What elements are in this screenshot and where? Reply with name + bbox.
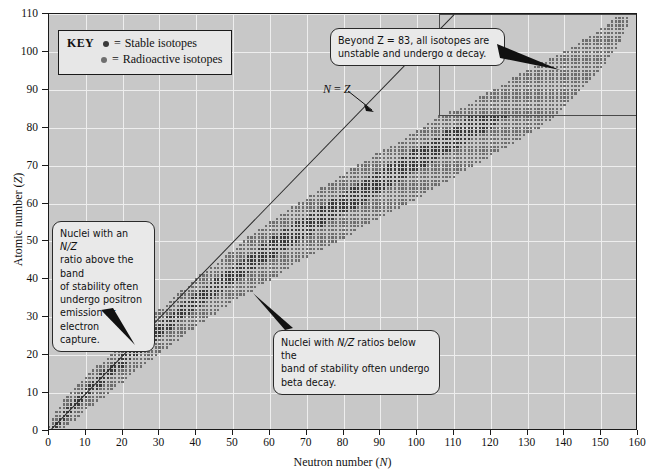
x-tick-label: 100 — [408, 436, 425, 448]
x-tick-label: 150 — [592, 436, 609, 448]
y-tick-mark — [42, 430, 48, 431]
radioactive-isotope-swatch — [101, 57, 107, 63]
x-tick-label: 20 — [116, 436, 128, 448]
legend-key-box: KEY = Stable isotopes = Radioactive isot… — [58, 30, 232, 75]
callout-positron-line6: capture. — [60, 333, 147, 346]
x-tick-mark — [306, 430, 307, 435]
z-symbol: Z — [344, 82, 351, 96]
x-tick-label: 160 — [628, 436, 645, 448]
x-tick-label: 140 — [555, 436, 572, 448]
x-tick-label: 30 — [153, 436, 165, 448]
x-tick-mark — [600, 430, 601, 435]
y-tick-label: 90 — [0, 83, 38, 95]
x-tick-label: 70 — [300, 436, 312, 448]
callout-positron-line2: ratio above the band — [60, 253, 147, 279]
callout-beta-line2: band of stability often undergo — [281, 362, 432, 375]
x-tick-mark — [48, 430, 49, 435]
callout-positron-line3: of stability often — [60, 280, 147, 293]
y-tick-mark — [42, 203, 48, 204]
x-tick-mark — [527, 430, 528, 435]
x-tick-label: 60 — [263, 436, 275, 448]
y-tick-mark — [42, 127, 48, 128]
y-tick-label: 110 — [0, 7, 38, 19]
legend-item-radioactive: = Radioactive isotopes — [67, 52, 222, 68]
x-tick-mark — [122, 430, 123, 435]
y-tick-label: 100 — [0, 45, 38, 57]
x-tick-mark — [232, 430, 233, 435]
x-tick-mark — [269, 430, 270, 435]
x-tick-mark — [85, 430, 86, 435]
callout-positron-line1-a: Nuclei with an — [60, 228, 128, 239]
x-tick-label: 80 — [337, 436, 349, 448]
x-tick-mark — [563, 430, 564, 435]
y-axis-title-symbol: Z — [11, 177, 25, 184]
callout-positron-line5: emission or electron — [60, 306, 147, 332]
y-tick-mark — [42, 51, 48, 52]
x-tick-mark — [637, 430, 638, 435]
legend-label-stable: Stable isotopes — [125, 36, 197, 52]
callout-alpha-line1: Beyond Z = 83, all isotopes are — [338, 34, 497, 47]
x-tick-mark — [453, 430, 454, 435]
y-tick-label: 0 — [0, 424, 38, 436]
legend-equals-stable: = — [114, 36, 121, 52]
callout-beta-line1: Nuclei with N/Z ratios below the — [281, 336, 432, 362]
y-tick-label: 10 — [0, 386, 38, 398]
x-axis-title-prefix: Neutron number ( — [294, 455, 380, 469]
x-tick-label: 50 — [226, 436, 238, 448]
x-tick-mark — [343, 430, 344, 435]
x-tick-mark — [416, 430, 417, 435]
y-tick-mark — [42, 354, 48, 355]
y-axis-title-prefix: Atomic number ( — [11, 184, 25, 267]
callout-positron-line4: undergo positron — [60, 293, 147, 306]
x-tick-mark — [379, 430, 380, 435]
callout-positron-nz-symbol: N/Z — [60, 241, 77, 252]
y-tick-mark — [42, 13, 48, 14]
legend-equals-radioactive: = — [112, 52, 119, 68]
x-tick-mark — [158, 430, 159, 435]
y-tick-label: 20 — [0, 348, 38, 360]
x-axis-title-symbol: N — [379, 455, 387, 469]
nuclear-stability-chart: 0102030405060708090100110120130140150160… — [0, 0, 651, 475]
x-axis-title: Neutron number (N) — [48, 455, 637, 470]
y-tick-mark — [42, 165, 48, 166]
x-tick-mark — [490, 430, 491, 435]
callout-beta-nz-symbol: N/Z — [337, 337, 354, 348]
x-tick-label: 0 — [45, 436, 51, 448]
callout-beta-line1-a: Nuclei with — [281, 337, 337, 348]
n-symbol: N — [323, 82, 331, 96]
legend-label-radioactive: Radioactive isotopes — [123, 52, 223, 68]
y-axis-title: Atomic number (Z) — [11, 110, 26, 330]
x-axis-title-suffix: ) — [388, 455, 392, 469]
y-tick-mark — [42, 278, 48, 279]
x-tick-label: 40 — [190, 436, 202, 448]
y-tick-mark — [42, 392, 48, 393]
n-equals-z-label: N = Z — [323, 82, 350, 97]
callout-beta-decay: Nuclei with N/Z ratios below the band of… — [273, 330, 440, 395]
x-tick-label: 120 — [481, 436, 498, 448]
stable-isotope-swatch — [103, 41, 109, 47]
y-tick-mark — [42, 316, 48, 317]
callout-beta-line3: beta decay. — [281, 376, 432, 389]
y-axis-title-suffix: ) — [11, 173, 25, 177]
callout-positron-line1: Nuclei with an N/Z — [60, 227, 147, 253]
x-tick-label: 90 — [374, 436, 386, 448]
x-tick-label: 10 — [79, 436, 91, 448]
callout-alpha-decay: Beyond Z = 83, all isotopes are unstable… — [330, 28, 505, 66]
x-tick-label: 110 — [445, 436, 462, 448]
y-tick-mark — [42, 89, 48, 90]
x-tick-label: 130 — [518, 436, 535, 448]
x-tick-mark — [195, 430, 196, 435]
callout-positron-emission: Nuclei with an N/Z ratio above the band … — [52, 221, 155, 352]
callout-alpha-line2: unstable and undergo α decay. — [338, 47, 497, 60]
y-tick-mark — [42, 240, 48, 241]
legend-key-label: KEY — [67, 36, 94, 52]
legend-item-stable: KEY = Stable isotopes — [67, 36, 222, 52]
